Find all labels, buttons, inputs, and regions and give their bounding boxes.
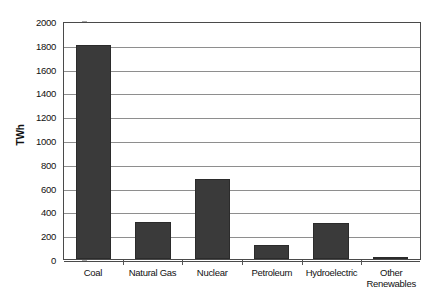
y-axis-tick-label: 600 xyxy=(24,183,56,194)
x-axis-tick-label-line: Natural Gas xyxy=(123,267,183,278)
bar-slot xyxy=(361,23,420,259)
y-axis-tick-label: 1800 xyxy=(24,40,56,51)
y-axis-tick-label: 0 xyxy=(24,255,56,266)
bar[interactable] xyxy=(76,45,112,259)
bar[interactable] xyxy=(254,245,290,259)
bar-slot xyxy=(64,23,123,259)
bar-slot xyxy=(123,23,182,259)
x-axis-tick-label: OtherRenewables xyxy=(361,267,421,289)
y-axis-tick-label: 800 xyxy=(24,159,56,170)
x-axis-tick-label: Hydroelectric xyxy=(302,267,362,289)
y-axis-tick-label: 1000 xyxy=(24,136,56,147)
bar[interactable] xyxy=(313,223,349,259)
x-axis-tick-label-line: Nuclear xyxy=(182,267,242,278)
x-axis-tick-mark xyxy=(242,260,243,265)
bar-slot xyxy=(301,23,360,259)
x-axis-tick-label-line: Renewables xyxy=(361,278,421,289)
x-axis-tick-label: Petroleum xyxy=(242,267,302,289)
x-axis-tick-label: Natural Gas xyxy=(123,267,183,289)
y-axis-tick-label: 400 xyxy=(24,207,56,218)
plot-area xyxy=(63,22,421,260)
x-axis-tick-mark xyxy=(302,260,303,265)
x-axis-tick-label: Nuclear xyxy=(182,267,242,289)
y-axis-tick-label: 1200 xyxy=(24,112,56,123)
x-axis: CoalNatural GasNuclearPetroleumHydroelec… xyxy=(63,260,421,305)
x-axis-tick-label-line: Petroleum xyxy=(242,267,302,278)
x-axis-tick-label-line: Hydroelectric xyxy=(302,267,362,278)
y-axis-tick-label: 1600 xyxy=(24,64,56,75)
bar-slot xyxy=(183,23,242,259)
x-axis-tick-label-line: Other xyxy=(361,267,421,278)
x-axis-tick-mark xyxy=(361,260,362,265)
x-axis-tick-mark xyxy=(182,260,183,265)
y-axis-tick-label: 2000 xyxy=(24,17,56,28)
x-axis-tick-label: Coal xyxy=(63,267,123,289)
y-axis-tick-label: 200 xyxy=(24,231,56,242)
bar-slot xyxy=(242,23,301,259)
bar[interactable] xyxy=(195,179,231,259)
bar[interactable] xyxy=(373,257,409,259)
y-axis-tick-label: 1400 xyxy=(24,88,56,99)
x-axis-tick-label-line: Coal xyxy=(63,267,123,278)
x-axis-tick-mark xyxy=(123,260,124,265)
bar[interactable] xyxy=(135,222,171,259)
bar-chart-figure: TWh 020040060080010001200140016001800200… xyxy=(0,0,436,305)
x-axis-tick-labels: CoalNatural GasNuclearPetroleumHydroelec… xyxy=(63,267,421,289)
y-axis-tick-labels: 0200400600800100012001400160018002000 xyxy=(24,22,56,260)
bars-layer xyxy=(64,23,420,259)
